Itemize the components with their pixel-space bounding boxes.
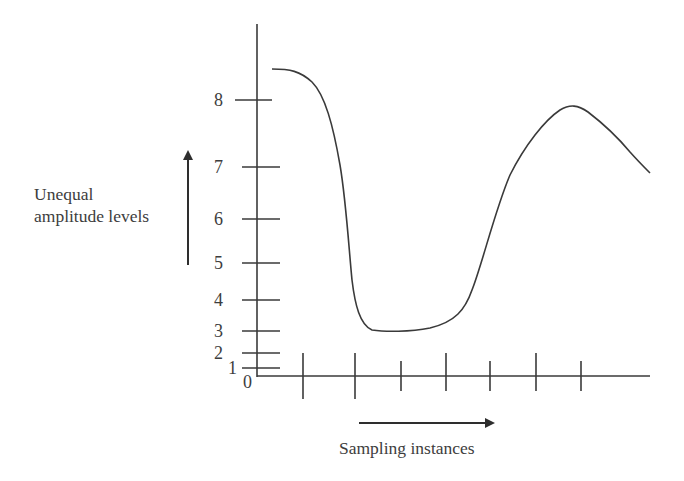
y-tick-labels: 8 7 6 5 4 3 2 1 0	[214, 90, 252, 392]
y-axis-label: Unequal amplitude levels	[34, 183, 149, 227]
signal-curve	[272, 69, 650, 331]
y-axis-label-line2: amplitude levels	[34, 205, 149, 227]
y-tick-label-5: 5	[214, 253, 223, 273]
y-axis-label-line1: Unequal	[34, 183, 149, 205]
y-tick-label-1: 1	[228, 358, 237, 378]
y-tick-label-0: 0	[243, 372, 252, 392]
x-axis-label: Sampling instances	[339, 438, 475, 459]
y-tick-label-7: 7	[214, 157, 223, 177]
y-tick-label-2: 2	[214, 343, 223, 363]
y-tick-label-8: 8	[214, 90, 223, 110]
y-tick-label-4: 4	[214, 290, 223, 310]
quantization-diagram: 8 7 6 5 4 3 2 1 0	[0, 0, 684, 481]
y-tick-label-3: 3	[214, 321, 223, 341]
y-tick-label-6: 6	[214, 209, 223, 229]
